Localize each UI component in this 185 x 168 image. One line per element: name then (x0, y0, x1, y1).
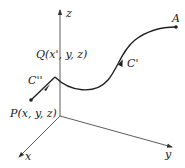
z-axis-label: z (65, 7, 72, 20)
point-p (29, 98, 33, 102)
curve-c-prime-label: C' (127, 57, 138, 70)
point-a (174, 25, 178, 29)
y-axis-label: y (164, 148, 172, 161)
point-q-label: Q(x', y, z) (36, 48, 87, 61)
point-p-label: P(x, y, z) (9, 107, 57, 120)
point-a-label: A (171, 12, 180, 25)
diagram-canvas: z y x A Q(x', y, z) P(x, y, z) C' C'' (0, 0, 185, 168)
y-axis (60, 116, 172, 147)
curve-c-double-prime-label: C'' (28, 74, 42, 87)
x-axis-label: x (25, 150, 32, 163)
